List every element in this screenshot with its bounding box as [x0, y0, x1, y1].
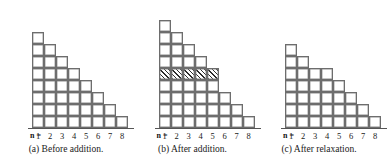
unit-cell	[56, 104, 68, 116]
unit-cell	[195, 80, 207, 92]
unit-cell	[32, 68, 44, 80]
unit-cell	[32, 104, 44, 116]
tick-label-7: 7	[357, 130, 369, 142]
unit-cell	[357, 104, 369, 116]
unit-cell	[80, 92, 92, 104]
unit-cell	[44, 68, 56, 80]
unit-cell	[159, 92, 171, 104]
unit-cell	[207, 116, 219, 128]
unit-cell	[32, 116, 44, 128]
unit-cell	[321, 116, 333, 128]
unit-cell	[231, 104, 243, 116]
hatched-cell	[159, 68, 171, 80]
unit-cell	[297, 92, 309, 104]
unit-cell	[333, 104, 345, 116]
unit-cell	[183, 116, 195, 128]
plot-a: n = 12345678	[10, 24, 122, 142]
cell-grid-a	[32, 20, 128, 128]
unit-cell	[285, 68, 297, 80]
unit-cell	[183, 92, 195, 104]
tick-label-2: 2	[44, 130, 56, 142]
unit-cell	[159, 104, 171, 116]
unit-cell	[44, 104, 56, 116]
unit-cell	[321, 80, 333, 92]
tick-label-6: 6	[345, 130, 357, 142]
unit-cell	[285, 116, 297, 128]
unit-cell	[116, 116, 128, 128]
unit-cell	[44, 56, 56, 68]
tick-label-3: 3	[183, 130, 195, 142]
tick-label-6: 6	[92, 130, 104, 142]
unit-cell	[44, 116, 56, 128]
unit-cell	[159, 32, 171, 44]
tick-label-2: 2	[297, 130, 309, 142]
unit-cell	[333, 80, 345, 92]
tick-label-1: 1	[285, 130, 297, 142]
unit-cell	[321, 68, 333, 80]
tick-label-3: 3	[309, 130, 321, 142]
caption-a: (a) Before addition.	[4, 142, 128, 158]
plot-b: n = 12345678	[137, 24, 249, 142]
hatched-cell	[207, 68, 219, 80]
plot-c: n = 12345678	[263, 24, 375, 142]
unit-cell	[32, 44, 44, 56]
unit-cell	[207, 92, 219, 104]
unit-cell	[68, 104, 80, 116]
unit-cell	[159, 44, 171, 56]
baseline-axis-c	[281, 128, 387, 129]
unit-cell	[345, 104, 357, 116]
unit-cell	[285, 56, 297, 68]
unit-cell	[285, 104, 297, 116]
unit-cell	[309, 92, 321, 104]
tick-label-6: 6	[219, 130, 231, 142]
tick-label-7: 7	[231, 130, 243, 142]
unit-cell	[321, 104, 333, 116]
tick-label-4: 4	[68, 130, 80, 142]
unit-cell	[104, 104, 116, 116]
unit-cell	[309, 80, 321, 92]
tick-label-2: 2	[171, 130, 183, 142]
hatched-cell	[195, 68, 207, 80]
caption-c: (c) After relaxation.	[257, 142, 381, 158]
unit-cell	[68, 116, 80, 128]
unit-cell	[219, 92, 231, 104]
unit-cell	[309, 104, 321, 116]
unit-cell	[159, 80, 171, 92]
unit-cell	[159, 20, 171, 32]
unit-cell	[56, 56, 68, 68]
unit-cell	[231, 116, 243, 128]
panel-a: n = 12345678 (a) Before addition.	[4, 0, 128, 158]
unit-cell	[92, 92, 104, 104]
unit-cell	[159, 116, 171, 128]
tick-label-8: 8	[243, 130, 255, 142]
unit-cell	[104, 116, 116, 128]
unit-cell	[195, 104, 207, 116]
unit-cell	[32, 92, 44, 104]
tick-label-8: 8	[116, 130, 128, 142]
unit-cell	[32, 32, 44, 44]
tick-label-4: 4	[321, 130, 333, 142]
unit-cell	[44, 44, 56, 56]
baseline-axis-b	[155, 128, 261, 129]
tick-label-8: 8	[369, 130, 381, 142]
tick-label-1: 1	[32, 130, 44, 142]
panel-c: n = 12345678 (c) After relaxation.	[257, 0, 381, 158]
unit-cell	[345, 92, 357, 104]
unit-cell	[195, 56, 207, 68]
unit-cell	[171, 92, 183, 104]
unit-cell	[183, 56, 195, 68]
hatched-cell	[183, 68, 195, 80]
unit-cell	[171, 80, 183, 92]
tick-label-5: 5	[80, 130, 92, 142]
unit-cell	[92, 104, 104, 116]
unit-cell	[56, 68, 68, 80]
unit-cell	[159, 56, 171, 68]
unit-cell	[333, 92, 345, 104]
unit-cell	[171, 44, 183, 56]
unit-cell	[80, 116, 92, 128]
tick-label-1: 1	[159, 130, 171, 142]
unit-cell	[171, 56, 183, 68]
unit-cell	[297, 68, 309, 80]
cell-grid-c	[285, 20, 381, 128]
unit-cell	[345, 116, 357, 128]
